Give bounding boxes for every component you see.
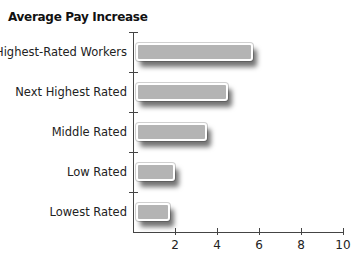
- x-tick-label: 2: [160, 238, 190, 252]
- x-tick-label: 6: [244, 238, 274, 252]
- x-tick-label: 8: [286, 238, 316, 252]
- x-tick: [343, 228, 344, 235]
- x-tick-label: 10: [328, 238, 356, 252]
- category-label: Low Rated: [67, 165, 127, 179]
- y-tick: [129, 192, 138, 193]
- x-axis: [133, 232, 343, 233]
- bar-middle-rated: [136, 123, 207, 141]
- y-tick: [129, 72, 138, 73]
- y-tick: [129, 152, 138, 153]
- category-label: Next Highest Rated: [15, 85, 127, 99]
- bar-highest-rated: [136, 43, 253, 61]
- bar-next-highest-rated: [136, 83, 228, 101]
- y-axis: [133, 32, 134, 232]
- bar-lowest-rated: [136, 203, 170, 221]
- chart-title: Average Pay Increase: [8, 10, 148, 24]
- y-tick: [129, 32, 138, 33]
- x-tick: [301, 228, 302, 235]
- x-tick-label: 4: [202, 238, 232, 252]
- x-tick: [217, 228, 218, 235]
- x-tick: [175, 228, 176, 235]
- y-tick: [129, 112, 138, 113]
- category-label: Middle Rated: [52, 125, 127, 139]
- category-label: Highest-Rated Workers: [0, 45, 127, 59]
- bar-low-rated: [136, 163, 175, 181]
- x-tick: [259, 228, 260, 235]
- category-label: Lowest Rated: [49, 205, 127, 219]
